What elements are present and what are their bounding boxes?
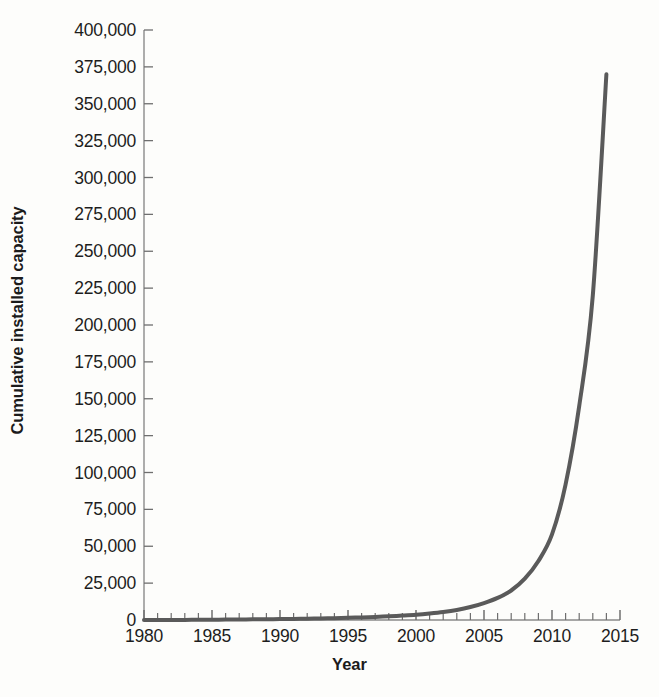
x-axis-title: Year — [0, 655, 659, 674]
x-axis-tick-label: 2000 — [397, 626, 435, 647]
x-axis-tick-label: 1995 — [329, 626, 367, 647]
x-axis-title-text: Year — [332, 655, 367, 673]
x-axis-tick-label: 2005 — [465, 626, 503, 647]
x-axis-tick-label: 2015 — [601, 626, 639, 647]
x-axis-tick-labels: 19801985199019952000200520102015 — [0, 0, 659, 697]
chart-figure: Cumulative installed capacity 400,000375… — [0, 0, 659, 697]
x-axis-tick-label: 2010 — [533, 626, 571, 647]
x-axis-tick-label: 1980 — [125, 626, 163, 647]
x-axis-tick-label: 1990 — [261, 626, 299, 647]
x-axis-tick-label: 1985 — [193, 626, 231, 647]
